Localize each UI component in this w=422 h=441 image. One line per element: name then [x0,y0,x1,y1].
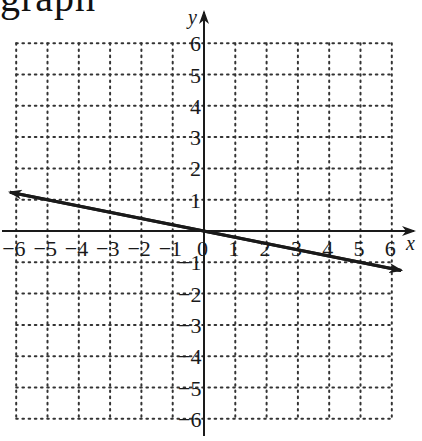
coordinate-plane-figure: graph xy −6−5−4−3−2−10123456−6−5−4−3−2−1… [0,0,422,441]
y-tick-label: −5 [178,376,201,401]
y-tick-label: −2 [178,282,201,307]
coordinate-plane: xy −6−5−4−3−2−10123456−6−5−4−3−2−1123456 [0,0,422,441]
y-tick-label: 4 [190,94,201,119]
x-axis-label: x [405,232,415,254]
y-tick-label: −1 [178,250,201,275]
x-tick-label: 5 [354,236,365,261]
y-tick-label: 2 [190,156,201,181]
y-tick-label: 6 [190,31,201,56]
x-tick-label: 2 [260,236,271,261]
y-tick-label: 1 [190,188,201,213]
x-tick-label: −5 [34,236,57,261]
axes: xy [2,6,415,436]
y-tick-label: −4 [178,344,201,369]
y-tick-label: −3 [178,313,201,338]
cropped-heading: graph [0,0,96,21]
y-axis-label: y [186,6,197,29]
y-tick-label: 3 [190,125,201,150]
x-tick-label: −3 [96,236,119,261]
x-tick-label: −4 [65,236,88,261]
y-tick-label: −6 [178,407,201,432]
x-tick-label: −6 [2,236,25,261]
x-tick-label: 1 [228,236,239,261]
x-tick-label: 6 [385,236,396,261]
x-tick-label: −2 [127,236,150,261]
y-tick-label: 5 [190,63,201,88]
